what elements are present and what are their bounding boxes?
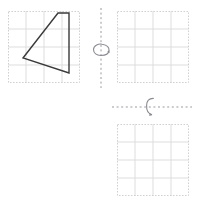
worksheet-canvas	[0, 0, 199, 207]
figure-layer	[0, 0, 199, 207]
quadrilateral-figure[interactable]	[23, 13, 69, 73]
